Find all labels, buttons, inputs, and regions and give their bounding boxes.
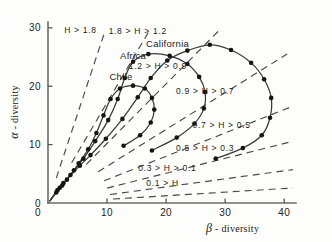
data-point: [174, 135, 179, 140]
isoline-0.3-gt-H-gt-0.1: [110, 170, 293, 195]
isoline-label-0.1-gt-H: 0.1 > H: [146, 178, 179, 188]
data-point: [120, 117, 125, 122]
y-tick-label: 0: [35, 198, 41, 209]
iso-labels-group: H > 1.81.8 > H > 1.21.2 > H > 0.90.9 > H…: [64, 25, 251, 188]
y-tick-label: 10: [29, 139, 41, 150]
tick-labels-group: 0102030400102030: [29, 22, 290, 218]
isoline-label-H-gt-1.8: H > 1.8: [64, 25, 97, 35]
isoline-label-0.3-gt-H-gt-0.1: 0.3 > H > 0.1: [138, 163, 196, 173]
data-point: [68, 173, 73, 178]
data-point: [207, 42, 212, 47]
data-point: [249, 61, 254, 66]
isoline-label-1.8-gt-H-gt-1.2: 1.8 > H > 1.2: [109, 26, 167, 36]
isoline-label-1.2-gt-H-gt-0.9: 1.2 > H > 0.9: [129, 61, 187, 71]
data-point: [121, 143, 126, 148]
data-point: [241, 146, 246, 151]
plot-canvas: 0102030400102030 H > 1.81.8 > H > 1.21.2…: [0, 0, 332, 242]
y-tick-label: 20: [29, 81, 41, 92]
x-axis-title: β - diversity: [205, 221, 259, 235]
data-point: [213, 156, 218, 161]
data-point: [262, 77, 267, 82]
isoline-label-0.7-gt-H-gt-0.5: 0.7 > H > 0.5: [192, 120, 250, 130]
data-point: [143, 86, 148, 91]
data-point: [146, 52, 151, 57]
isoline-label-0.9-gt-H-gt-0.7: 0.9 > H > 0.7: [176, 86, 234, 96]
isolines-group: [56, 28, 293, 199]
data-point: [93, 139, 98, 144]
data-point: [167, 54, 172, 59]
series-labels-group: CaliforniaAfricaChile: [109, 38, 189, 82]
data-point: [268, 115, 273, 120]
y-axis-title: α - diversity: [7, 85, 21, 139]
data-point: [106, 118, 111, 123]
data-point: [118, 86, 123, 91]
data-point: [104, 136, 109, 141]
tick-marks: [48, 28, 284, 203]
x-tick-label: 20: [160, 207, 172, 218]
isoline-0.1-gt-H: [113, 188, 293, 199]
data-point: [148, 120, 153, 125]
diversity-scatter-figure: 0102030400102030 H > 1.81.8 > H > 1.21.2…: [0, 0, 332, 242]
data-point: [101, 113, 106, 118]
data-point: [150, 148, 155, 153]
series-label-africa: Africa: [120, 50, 146, 61]
data-point: [94, 131, 99, 136]
data-point: [65, 177, 70, 182]
data-point: [60, 183, 65, 188]
data-point: [229, 48, 234, 53]
data-point: [135, 95, 140, 100]
data-point: [138, 133, 143, 138]
data-point: [148, 76, 153, 81]
data-point: [54, 190, 59, 195]
data-point: [197, 75, 202, 80]
data-point: [88, 153, 93, 158]
data-point: [150, 96, 155, 101]
data-point: [81, 156, 86, 161]
x-tick-label: 30: [219, 207, 231, 218]
y-tick-label: 30: [29, 22, 41, 33]
isoline-H-gt-1.8: [56, 32, 104, 178]
data-point: [76, 161, 81, 166]
data-point: [131, 83, 136, 88]
data-point: [152, 107, 157, 112]
data-point: [202, 106, 207, 111]
data-point: [115, 97, 120, 102]
data-point: [108, 97, 113, 102]
x-tick-label: 10: [101, 207, 113, 218]
x-tick-label: 0: [35, 207, 41, 218]
data-point: [259, 133, 264, 138]
data-point: [269, 96, 274, 101]
data-point: [86, 147, 91, 152]
isoline-label-0.5-gt-H-gt-0.3: 0.5 > H > 0.3: [176, 143, 234, 153]
data-point: [72, 168, 77, 173]
series-label-chile: Chile: [109, 71, 132, 82]
series-label-california: California: [146, 38, 190, 49]
x-tick-label: 40: [278, 207, 290, 218]
